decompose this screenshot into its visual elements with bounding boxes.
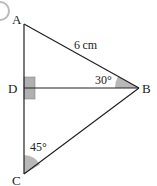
vertex-label-a: A [12,12,22,27]
side-bc [24,88,139,174]
side-ab-length: 6 cm [74,38,98,52]
triangle-diagram: A D B C 6 cm 30° 45° [0,0,157,186]
vertex-label-b: B [142,81,151,96]
question-marker-icon [0,2,9,20]
vertex-label-c: C [12,173,21,186]
vertex-label-d: D [8,81,17,96]
angle-c-label: 45° [30,140,47,154]
angle-b-label: 30° [95,73,112,87]
side-ab [24,24,139,88]
